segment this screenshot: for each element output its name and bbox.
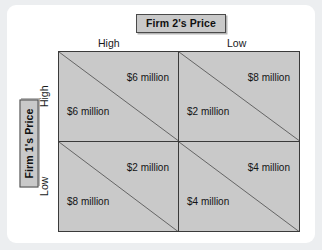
firm2-price-label-text: Firm 2's Price [146, 18, 216, 29]
matrix-cell-high-high: $6 million $6 million [59, 52, 179, 142]
payoff-firm2-low-high: $2 million [127, 163, 169, 173]
column-header-low: Low [227, 38, 246, 49]
payoff-firm1-high-high: $6 million [67, 107, 109, 117]
payoff-firm1-high-low: $2 million [187, 107, 229, 117]
matrix-cell-high-low: $8 million $2 million [179, 52, 299, 142]
firm1-price-label-text: Firm 1's Price [24, 109, 35, 179]
matrix-cell-low-low: $4 million $4 million [179, 142, 299, 232]
diagonal-divider-icon [59, 142, 178, 232]
payoff-firm1-low-high: $8 million [67, 197, 109, 207]
row-header-high: High [39, 81, 50, 111]
payoff-matrix: $6 million $6 million $8 million $2 mill… [58, 51, 300, 232]
row-header-low: Low [39, 171, 50, 201]
payoff-firm2-high-high: $6 million [127, 73, 169, 83]
diagonal-divider-icon [59, 52, 178, 141]
payoff-firm2-high-low: $8 million [248, 73, 290, 83]
diagonal-divider-icon [179, 142, 299, 232]
firm2-price-label: Firm 2's Price [136, 14, 226, 33]
payoff-firm2-low-low: $4 million [248, 163, 290, 173]
diagonal-divider-icon [179, 52, 299, 141]
firm1-price-label: Firm 1's Price [20, 100, 39, 188]
payoff-firm1-low-low: $4 million [187, 197, 229, 207]
matrix-cell-low-high: $2 million $8 million [59, 142, 179, 232]
figure-canvas: Firm 2's Price Firm 1's Price High Low H… [0, 0, 322, 250]
column-header-high: High [98, 38, 120, 49]
